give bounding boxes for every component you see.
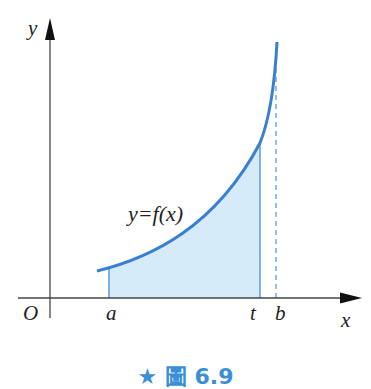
y-axis-label: y [28, 18, 37, 39]
origin-label: O [23, 303, 38, 324]
tick-a-label: a [106, 303, 117, 324]
tick-b-label: b [275, 303, 286, 324]
y-axis-arrow-icon [45, 18, 55, 40]
x-axis-arrow-icon [340, 293, 362, 304]
tick-t-label: t [250, 303, 256, 324]
figure-caption: ★ 圖 6.9 [0, 366, 371, 388]
function-label: y=f(x) [128, 203, 183, 225]
x-axis-label: x [341, 310, 350, 331]
